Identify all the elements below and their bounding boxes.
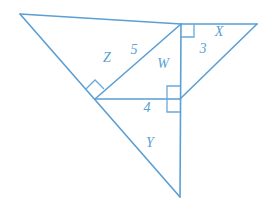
segment-top-edge bbox=[20, 14, 181, 24]
right-angle-center-lower-icon bbox=[167, 99, 180, 112]
label-4: 4 bbox=[144, 101, 151, 115]
segment-long-left-diagonal bbox=[20, 14, 180, 197]
label-Z: Z bbox=[103, 51, 111, 65]
right-angle-center-upper-icon bbox=[167, 86, 180, 99]
geometry-canvas bbox=[0, 0, 272, 217]
right-angle-left-interior-icon bbox=[86, 80, 104, 89]
geometry-figure: Z 5 W X 3 4 Y bbox=[0, 0, 272, 217]
label-3: 3 bbox=[200, 42, 207, 56]
label-W: W bbox=[157, 57, 169, 71]
label-Y: Y bbox=[146, 136, 154, 150]
label-5: 5 bbox=[131, 43, 138, 57]
right-angle-apex-icon bbox=[181, 24, 194, 37]
label-X: X bbox=[215, 25, 224, 39]
segment-vertical-altitude bbox=[180, 24, 181, 197]
